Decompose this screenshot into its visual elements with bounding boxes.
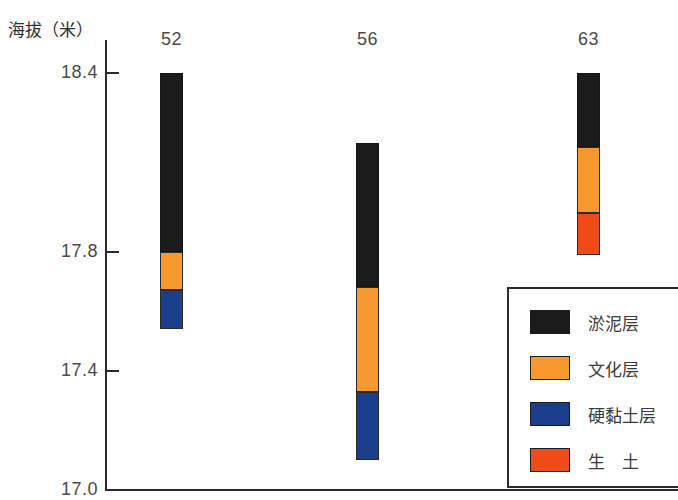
bar-segment — [160, 73, 183, 252]
legend-label: 生 土 — [588, 448, 639, 473]
legend-item: 淤泥层 — [509, 301, 678, 343]
legend-swatch — [530, 356, 570, 380]
bar-segment — [577, 73, 600, 147]
legend-item: 文化层 — [509, 347, 678, 389]
legend-swatch — [530, 402, 570, 426]
x-axis-line — [105, 489, 678, 491]
y-tick-label-wrap: 18.4 — [28, 62, 98, 82]
y-axis-title: 海拔（米） — [8, 16, 93, 41]
y-tick-label: 18.4 — [32, 62, 98, 83]
legend: 淤泥层文化层硬黏土层生 土 — [507, 287, 678, 488]
legend-label: 文化层 — [588, 356, 639, 381]
y-tick-mark — [107, 251, 119, 253]
y-tick-label-wrap: 17.0 — [28, 479, 98, 499]
y-tick-mark — [107, 370, 119, 372]
y-tick-mark — [107, 489, 119, 491]
legend-swatch — [530, 310, 570, 334]
legend-label: 淤泥层 — [588, 310, 639, 335]
bar-segment — [356, 143, 379, 287]
y-tick-mark — [107, 72, 119, 74]
legend-item: 生 土 — [509, 439, 678, 481]
bar-label: 52 — [142, 29, 202, 50]
bar-segment — [160, 252, 183, 291]
bar-segment — [356, 287, 379, 391]
y-tick-label-wrap: 17.8 — [28, 241, 98, 261]
y-axis-line — [105, 40, 107, 491]
legend-item: 硬黏土层 — [509, 393, 678, 435]
y-tick-label: 17.4 — [32, 360, 98, 381]
y-tick-label: 17.8 — [32, 241, 98, 262]
bar-segment — [160, 290, 183, 329]
bar-segment — [577, 147, 600, 213]
bar-segment — [356, 392, 379, 461]
y-tick-label-wrap: 17.4 — [28, 360, 98, 380]
stratigraphy-chart: 海拔（米） 18.417.817.417.0 525663 淤泥层文化层硬黏土层… — [0, 0, 678, 500]
legend-swatch — [530, 448, 570, 472]
y-tick-label: 17.0 — [32, 479, 98, 500]
legend-label: 硬黏土层 — [588, 402, 656, 427]
bar-label: 63 — [559, 29, 619, 50]
bar-label: 56 — [338, 29, 398, 50]
bar-segment — [577, 213, 600, 255]
